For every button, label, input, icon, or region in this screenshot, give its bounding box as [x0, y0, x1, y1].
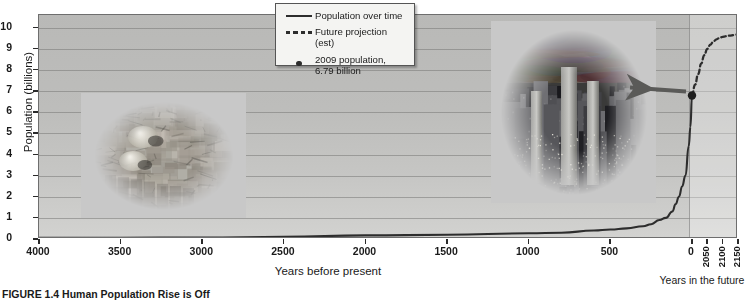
- x-tick-mark-0: [691, 239, 693, 244]
- x-tick-label-future-2100: 2100: [717, 240, 727, 274]
- future-projection-line: [692, 34, 737, 95]
- y-tick-label-0: 0: [0, 232, 12, 243]
- x-tick-label-3500: 3500: [97, 246, 143, 257]
- dot-icon: [283, 54, 315, 67]
- arrow-to-2009-point: [630, 88, 686, 92]
- y-tick-label-1: 1: [0, 211, 12, 222]
- x-tick-mark-3000: [201, 239, 203, 244]
- y-tick-label-7: 7: [0, 84, 12, 95]
- legend-label-2009-line2: 6.79 billion: [315, 65, 361, 76]
- population-over-time-line: [39, 96, 692, 238]
- chart-legend: Population over time Future projection (…: [275, 3, 415, 66]
- y-tick-label-9: 9: [0, 42, 12, 53]
- x-tick-mark-500: [609, 239, 611, 244]
- solid-line-icon: [283, 10, 315, 17]
- x-tick-mark-3500: [120, 239, 122, 244]
- figure-caption: FIGURE 1.4 Human Population Rise is Off: [2, 288, 752, 300]
- x-tick-label-1500: 1500: [423, 246, 469, 257]
- x-tick-mark-1000: [528, 239, 530, 244]
- x-tick-label-2000: 2000: [342, 246, 388, 257]
- future-axis-title: Years in the future: [656, 275, 748, 287]
- figure-human-population-rise: Industrial Era Population over time Futu…: [0, 0, 754, 300]
- y-tick-label-3: 3: [0, 169, 12, 180]
- x-tick-mark-4000: [38, 239, 40, 244]
- x-tick-mark-2500: [283, 239, 285, 244]
- x-tick-label-500: 500: [586, 246, 632, 257]
- legend-item-future-projection: Future projection (est): [283, 26, 407, 48]
- y-tick-label-5: 5: [0, 126, 12, 137]
- legend-label-population-over-time: Population over time: [315, 10, 402, 21]
- legend-label-2009-population: 2009 population, 6.79 billion: [315, 54, 386, 76]
- y-tick-label-2: 2: [0, 190, 12, 201]
- caption-text: Human Population Rise is Off: [62, 288, 210, 300]
- dashed-line-icon: [283, 26, 315, 34]
- y-tick-label-6: 6: [0, 105, 12, 116]
- y-tick-mark-1: [33, 217, 38, 219]
- x-tick-label-1000: 1000: [505, 246, 551, 257]
- y-axis-title: Population (billions): [22, 17, 34, 187]
- data-point-2009-population: [688, 91, 696, 99]
- x-tick-label-2500: 2500: [260, 246, 306, 257]
- caption-figure-number: FIGURE 1.4: [2, 288, 59, 300]
- x-tick-mark-2000: [365, 239, 367, 244]
- x-tick-mark-1500: [446, 239, 448, 244]
- x-tick-label-future-2050: 2050: [702, 240, 712, 274]
- legend-label-2009-line1: 2009 population,: [315, 54, 386, 65]
- legend-item-population-over-time: Population over time: [283, 10, 407, 21]
- x-tick-label-3000: 3000: [178, 246, 224, 257]
- y-tick-label-10: 10: [0, 21, 12, 32]
- x-tick-label-future-2150: 2150: [732, 240, 742, 274]
- legend-label-future-projection: Future projection (est): [315, 26, 407, 48]
- x-axis-title: Years before present: [228, 265, 428, 277]
- y-tick-label-8: 8: [0, 63, 12, 74]
- y-tick-label-4: 4: [0, 148, 12, 159]
- x-tick-label-4000: 4000: [15, 246, 61, 257]
- y-tick-mark-2: [33, 196, 38, 198]
- legend-item-2009-population: 2009 population, 6.79 billion: [283, 54, 407, 76]
